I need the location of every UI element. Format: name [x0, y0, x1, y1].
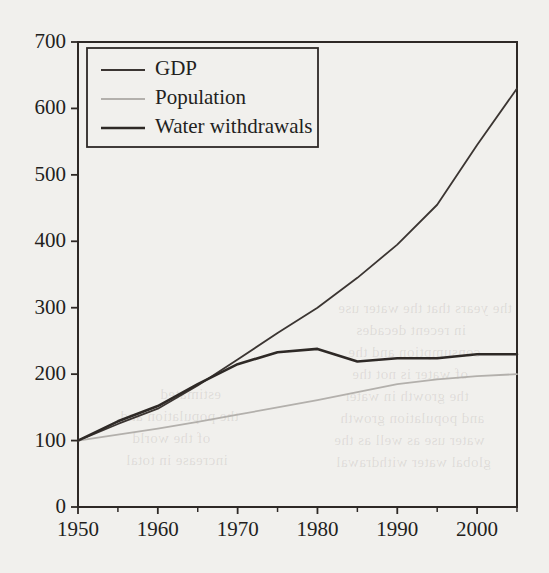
legend-label-population: Population	[155, 85, 246, 110]
x-tick-label-1980: 1980	[282, 517, 352, 542]
x-tick-label-1970: 1970	[203, 517, 273, 542]
x-tick-label-1950: 1950	[43, 517, 113, 542]
series-line-population	[78, 374, 517, 440]
legend-label-water-withdrawals: Water withdrawals	[155, 114, 313, 139]
y-tick-label-100: 100	[35, 428, 67, 453]
line-chart-plot	[0, 0, 549, 573]
y-tick-label-600: 600	[35, 95, 67, 120]
y-tick-label-400: 400	[35, 228, 67, 253]
chart-figure: the years that the water usein recent de…	[0, 0, 549, 573]
y-tick-label-700: 700	[35, 29, 67, 54]
series-line-water-withdrawals	[78, 349, 517, 441]
y-tick-label-200: 200	[35, 361, 67, 386]
x-tick-label-2000: 2000	[442, 517, 512, 542]
x-tick-label-1960: 1960	[123, 517, 193, 542]
y-tick-label-500: 500	[35, 162, 67, 187]
legend-label-gdp: GDP	[155, 56, 197, 81]
y-tick-label-0: 0	[56, 494, 67, 519]
y-tick-label-300: 300	[35, 295, 67, 320]
x-tick-label-1990: 1990	[362, 517, 432, 542]
